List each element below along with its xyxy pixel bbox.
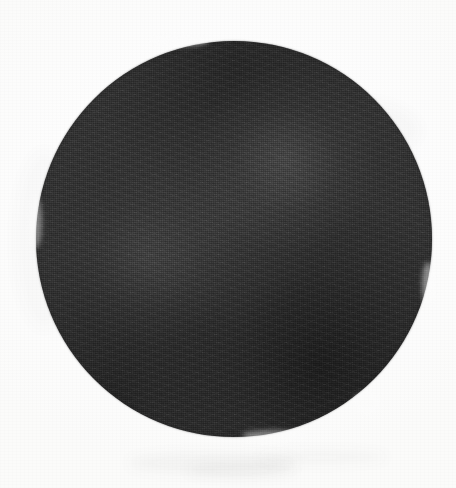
charcoal-rim-softening bbox=[36, 41, 432, 437]
charcoal-circle bbox=[36, 41, 432, 437]
artwork-canvas: A hand-drawn solid dark charcoal circle … bbox=[0, 0, 456, 488]
